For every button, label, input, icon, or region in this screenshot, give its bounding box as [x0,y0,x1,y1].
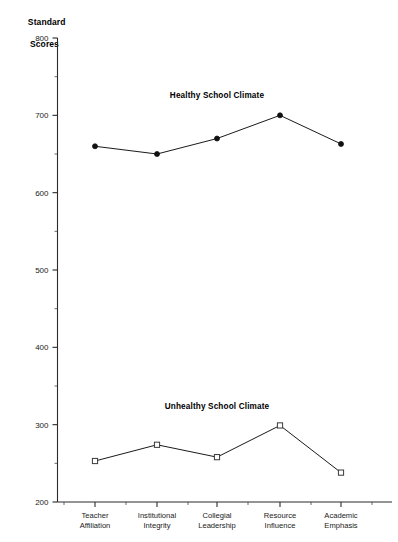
data-point [155,152,160,157]
svg-text:Affiliation: Affiliation [80,521,111,530]
data-point [278,113,283,118]
y-axis-ticks [53,38,58,502]
series-lines [95,115,341,472]
line-chart-plot: 200300400500600700800 TeacherAffiliation… [0,0,398,542]
svg-text:700: 700 [35,111,49,120]
data-point [338,470,343,475]
svg-text:500: 500 [35,266,49,275]
svg-text:800: 800 [35,34,49,43]
data-point [93,144,98,149]
svg-text:Leadership: Leadership [198,521,236,530]
svg-text:Resource: Resource [264,511,297,520]
series-annotation-1: Healthy School Climate [170,91,265,100]
svg-text:Integrity: Integrity [143,521,170,530]
series-line-2 [95,425,341,472]
svg-text:Emphasis: Emphasis [324,521,358,530]
series-markers [92,113,343,475]
svg-text:400: 400 [35,343,49,352]
data-point [154,442,159,447]
svg-text:200: 200 [35,498,49,507]
svg-text:Influence: Influence [265,521,296,530]
svg-text:Academic: Academic [324,511,358,520]
svg-text:300: 300 [35,421,49,430]
y-axis-tick-labels: 200300400500600700800 [35,34,49,507]
x-axis-ticks [64,502,372,507]
data-point [215,136,220,141]
svg-text:Institutional: Institutional [138,511,177,520]
x-axis-category-labels: TeacherAffiliationInstitutionalIntegrity… [80,511,358,530]
series-annotation-2: Unhealthy School Climate [165,402,270,411]
series-line-1 [95,115,341,154]
chart-figure: Standard Scores 200300400500600700800 Te… [0,0,398,542]
svg-text:Teacher: Teacher [81,511,108,520]
svg-text:Collegial: Collegial [202,511,231,520]
data-point [92,458,97,463]
data-point [214,455,219,460]
svg-text:600: 600 [35,189,49,198]
data-point [277,423,282,428]
data-point [339,141,344,146]
